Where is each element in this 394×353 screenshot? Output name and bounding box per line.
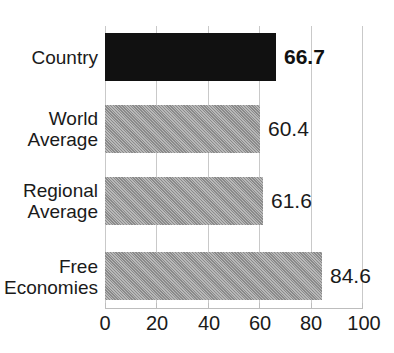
x-tick-label-100: 100 (347, 312, 380, 335)
x-tick-label-40: 40 (198, 312, 220, 335)
x-tick-label-80: 80 (300, 312, 322, 335)
category-label-free-economies: Free Economies (0, 256, 98, 298)
bar-country (105, 33, 276, 81)
x-tick-label-20: 20 (146, 312, 168, 335)
bar-row-country: 66.7 (105, 33, 362, 81)
bar-row-regional-average: 61.6 (105, 177, 362, 225)
category-label-regional-average: Regional Average (0, 180, 98, 222)
x-tick-label-60: 60 (249, 312, 271, 335)
bar-value-free-economies: 84.6 (330, 264, 371, 288)
x-tick-mark-20 (156, 303, 157, 309)
bar-regional-average (105, 177, 263, 225)
x-tick-mark-60 (259, 303, 260, 309)
category-label-world-average: World Average (0, 108, 98, 150)
bar-free-economies (105, 252, 322, 300)
x-tick-mark-100 (362, 303, 363, 309)
x-tick-label-0: 0 (99, 312, 110, 335)
x-tick-mark-0 (105, 303, 106, 309)
bar-chart: 66.7 60.4 61.6 84.6 Country World Averag… (0, 0, 394, 353)
bar-value-country: 66.7 (284, 45, 325, 69)
bar-value-regional-average: 61.6 (271, 189, 312, 213)
x-tick-mark-80 (311, 303, 312, 309)
plot-area: 66.7 60.4 61.6 84.6 (105, 26, 362, 308)
x-axis-line (105, 308, 363, 309)
x-tick-mark-40 (208, 303, 209, 309)
category-label-country: Country (0, 47, 98, 68)
bar-row-world-average: 60.4 (105, 105, 362, 153)
bar-row-free-economies: 84.6 (105, 252, 362, 300)
bar-world-average (105, 105, 260, 153)
bar-value-world-average: 60.4 (268, 117, 309, 141)
